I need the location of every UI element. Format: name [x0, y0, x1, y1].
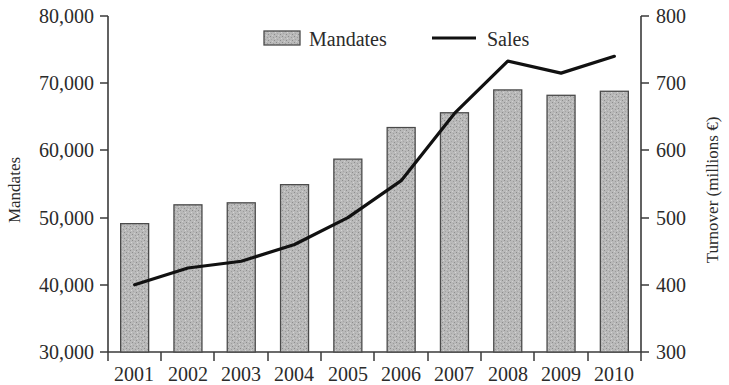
- left-axis: 80,000 70,000 60,000 50,000 40,000 30,00…: [5, 5, 108, 363]
- bar-2007: [440, 113, 468, 352]
- bar-2008: [494, 90, 522, 352]
- left-axis-tick-label: 60,000: [39, 139, 94, 161]
- chart-svg: 80,000 70,000 60,000 50,000 40,000 30,00…: [0, 0, 729, 385]
- x-axis-tick-label: 2007: [434, 363, 474, 385]
- bar-series-mandates: [121, 90, 629, 352]
- sales-line-path: [135, 56, 615, 284]
- left-axis-tick-label: 50,000: [39, 207, 94, 229]
- legend-mandates-bar-swatch-icon: [264, 31, 300, 45]
- x-axis-tick-label: 2008: [488, 363, 528, 385]
- bar-2002: [174, 205, 202, 352]
- right-axis-tick-label: 700: [656, 72, 686, 94]
- chart-container: 80,000 70,000 60,000 50,000 40,000 30,00…: [0, 0, 729, 385]
- x-axis-tick-label: 2004: [274, 363, 314, 385]
- bar-2003: [227, 203, 255, 352]
- bar-2004: [281, 185, 309, 352]
- right-axis-tick-label: 600: [656, 139, 686, 161]
- bar-2009: [547, 95, 575, 352]
- bar-2006: [387, 128, 415, 352]
- bar-2010: [600, 91, 628, 352]
- right-axis-tick-label: 500: [656, 207, 686, 229]
- left-axis-tick-label: 80,000: [39, 5, 94, 27]
- x-axis-tick-label: 2006: [381, 363, 421, 385]
- right-axis-title: Turnover (millions €): [703, 117, 722, 264]
- right-axis-tick-label: 800: [656, 5, 686, 27]
- left-axis-tick-label: 40,000: [39, 274, 94, 296]
- left-axis-tick-label: 30,000: [39, 341, 94, 363]
- right-axis-tick-label: 300: [656, 341, 686, 363]
- chart-legend: Mandates Sales: [264, 28, 529, 50]
- left-axis-tick-label: 70,000: [39, 72, 94, 94]
- legend-label-sales: Sales: [487, 28, 529, 50]
- bar-2005: [334, 159, 362, 352]
- x-axis-tick-label: 2009: [541, 363, 581, 385]
- line-series-sales: [135, 56, 615, 284]
- right-axis-tick-label: 400: [656, 274, 686, 296]
- bar-2001: [121, 224, 149, 352]
- x-axis-tick-label: 2001: [114, 363, 154, 385]
- left-axis-title: Mandates: [5, 157, 24, 223]
- x-axis-tick-label: 2005: [328, 363, 368, 385]
- right-axis: 800 700 600 500 400 300 Turnover (millio…: [641, 5, 722, 363]
- x-axis-tick-label: 2002: [168, 363, 208, 385]
- x-axis-tick-label: 2010: [594, 363, 634, 385]
- x-axis: 2001 2002 2003 2004 2005 2006 2007 2008 …: [108, 352, 641, 385]
- legend-label-mandates: Mandates: [309, 28, 387, 50]
- x-axis-tick-label: 2003: [221, 363, 261, 385]
